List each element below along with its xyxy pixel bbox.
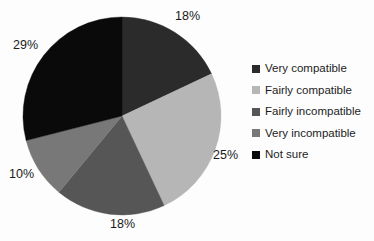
legend-item-label: Very compatible bbox=[265, 63, 347, 75]
legend-item[interactable]: Fairly incompatible bbox=[252, 101, 374, 123]
legend-swatch-icon bbox=[252, 129, 260, 137]
slice-label-very-compatible: 18% bbox=[175, 9, 200, 23]
slice-label-not-sure: 29% bbox=[13, 38, 38, 52]
slice-label-fairly-compatible: 25% bbox=[213, 148, 238, 162]
legend-item[interactable]: Very incompatible bbox=[252, 123, 374, 145]
legend-item-label: Very incompatible bbox=[265, 128, 356, 140]
legend-swatch-icon bbox=[252, 108, 260, 116]
legend-swatch-icon bbox=[252, 86, 260, 94]
legend-item[interactable]: Not sure bbox=[252, 144, 374, 166]
slice-label-fairly-incompatible: 18% bbox=[110, 217, 135, 231]
pie-slice-group bbox=[23, 17, 221, 215]
legend-swatch-icon bbox=[252, 151, 260, 159]
slice-label-very-incompatible: 10% bbox=[9, 167, 34, 181]
legend-item[interactable]: Fairly compatible bbox=[252, 80, 374, 102]
pie-svg bbox=[22, 16, 222, 216]
cropped-chart-title bbox=[62, 0, 272, 5]
legend-item-label: Fairly compatible bbox=[265, 85, 352, 97]
legend-item[interactable]: Very compatible bbox=[252, 58, 374, 80]
chart-legend: Very compatibleFairly compatibleFairly i… bbox=[252, 58, 374, 166]
legend-swatch-icon bbox=[252, 65, 260, 73]
pie-chart-figure: 18% 25% 18% 10% 29% Very compatibleFairl… bbox=[0, 0, 374, 241]
legend-item-label: Not sure bbox=[265, 149, 308, 161]
legend-item-label: Fairly incompatible bbox=[265, 106, 361, 118]
pie-plot-area bbox=[22, 16, 222, 216]
